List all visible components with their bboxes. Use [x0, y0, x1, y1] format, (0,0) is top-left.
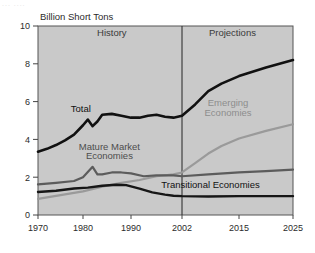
cropped-header-text: ... .... — [2, 0, 26, 7]
y-tick-label: 10 — [20, 21, 30, 31]
x-tick-label: 1980 — [73, 223, 93, 233]
chart-figure: ... .... 0246810 19701980199020022015202… — [0, 0, 315, 253]
annotation-label: Total — [71, 103, 91, 114]
y-tick-label: 6 — [25, 97, 30, 107]
x-tick-label: 1990 — [121, 223, 141, 233]
x-tick-label: 2025 — [283, 223, 303, 233]
y-tick-label: 8 — [25, 59, 30, 69]
y-tick-label: 0 — [25, 210, 30, 220]
x-tick-label: 2015 — [229, 223, 249, 233]
x-tick-label: 2002 — [172, 223, 192, 233]
y-tick-label: 2 — [25, 173, 30, 183]
annotation-label: History — [97, 27, 127, 38]
y-axis-title: Billion Short Tons — [40, 11, 113, 22]
annotation-label: Transitional Economies — [161, 179, 260, 190]
annotation-label: Projections — [209, 27, 256, 38]
x-tick-label: 1970 — [28, 223, 48, 233]
energy-consumption-line-chart: 0246810 197019801990200220152025 History… — [0, 0, 315, 253]
y-axis: 0246810 — [20, 21, 38, 220]
y-tick-label: 4 — [25, 135, 30, 145]
annotation-label: Economies — [205, 107, 252, 118]
annotation-label: Economies — [86, 150, 133, 161]
x-axis: 197019801990200220152025 — [28, 215, 303, 233]
